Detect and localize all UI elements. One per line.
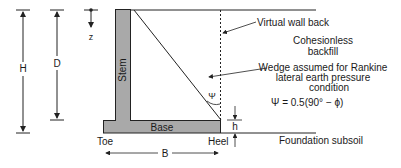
- label-h: h: [232, 121, 238, 132]
- label-z: z: [89, 32, 94, 42]
- height-H-dimension: H: [16, 10, 30, 133]
- label-D: D: [53, 58, 60, 69]
- label-virtual-wall-back: Virtual wall back: [257, 17, 330, 28]
- label-backfill-line1: Cohesionless: [293, 35, 353, 46]
- label-B: B: [162, 148, 169, 159]
- label-wedge-line3: condition: [309, 82, 349, 93]
- label-H: H: [19, 63, 26, 74]
- base-width-B-dimension: B: [106, 148, 218, 159]
- heel-thickness-h-dimension: h: [227, 106, 242, 147]
- label-foundation-subsoil: Foundation subsoil: [279, 135, 363, 146]
- psi-formula: Ψ = 0.5(90° − ϕ): [271, 97, 343, 108]
- label-backfill-line2: backfill: [308, 46, 339, 57]
- retaining-wall: Stem Base: [104, 10, 221, 134]
- depth-z-indicator: z: [84, 8, 98, 42]
- retaining-wall-diagram: H D z Stem Base Ψ Virtual wall back Cohe…: [0, 0, 401, 168]
- rankine-wedge-line: [134, 10, 221, 120]
- label-toe: Toe: [97, 136, 114, 147]
- label-psi: Ψ: [208, 91, 216, 101]
- label-heel: Heel: [208, 136, 229, 147]
- label-base: Base: [151, 122, 174, 133]
- label-stem: Stem: [117, 58, 128, 81]
- leader-virtual-wall-back: [223, 22, 256, 33]
- depth-D-dimension: D: [50, 10, 64, 120]
